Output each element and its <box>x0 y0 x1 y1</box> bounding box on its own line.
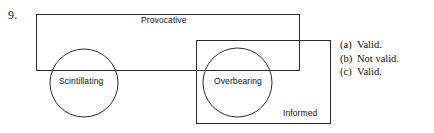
label-provocative: Provocative <box>141 15 187 25</box>
answer-text-c: Valid. <box>357 65 382 79</box>
answer-key-a: (a) <box>340 38 357 52</box>
answer-item-c: (c) Valid. <box>340 65 434 79</box>
label-scintillating: Scintillating <box>59 76 103 86</box>
answer-key-c: (c) <box>340 65 357 79</box>
answer-text-b: Not valid. <box>357 52 399 66</box>
answer-item-b: (b) Not valid. <box>340 52 434 66</box>
answer-list: (a) Valid. (b) Not valid. (c) Valid. <box>340 38 434 79</box>
answer-item-a: (a) Valid. <box>340 38 434 52</box>
exercise-figure: 9. Provocative Scintillating Overbearing… <box>0 0 434 133</box>
answer-text-a: Valid. <box>357 38 382 52</box>
euler-diagram: 9. Provocative Scintillating Overbearing… <box>0 0 340 133</box>
answer-key-b: (b) <box>340 52 357 66</box>
label-overbearing: Overbearing <box>214 76 262 86</box>
label-informed: Informed <box>283 108 317 118</box>
